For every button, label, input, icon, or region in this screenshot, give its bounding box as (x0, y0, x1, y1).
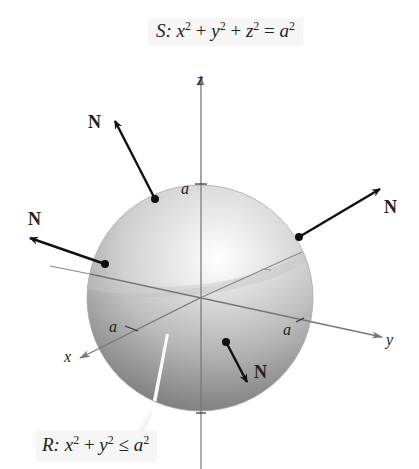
var-y: y (211, 20, 219, 41)
normal-label: N (88, 112, 101, 132)
exp: 2 (289, 19, 295, 33)
var-x: x (65, 434, 73, 455)
radius-label-x: a (109, 318, 117, 335)
surface-name: S: (156, 20, 172, 41)
y-axis-label: y (384, 331, 394, 349)
radius-label-y: a (283, 321, 291, 338)
plus: + (79, 434, 99, 455)
var-a: a (280, 20, 290, 41)
leq: ≤ (114, 434, 134, 455)
y-axis-back (50, 266, 90, 274)
surface-equation-label: S: x2 + y2 + z2 = a2 (148, 18, 303, 46)
normal-vector-upper-right: N (295, 189, 397, 241)
radius-label-z: a (181, 180, 189, 197)
plus: + (191, 20, 211, 41)
sphere-diagram: z x y a a a N N N N (0, 0, 419, 469)
z-axis-label: z (196, 71, 204, 88)
normal-vector-upper-left: N (88, 112, 159, 203)
normal-label: N (384, 197, 397, 217)
var-y: y (99, 434, 107, 455)
equals: = (259, 20, 279, 41)
sphere-surface (70, 185, 330, 420)
var-x: x (177, 20, 185, 41)
region-equation-label: R: x2 + y2 ≤ a2 (36, 430, 157, 462)
x-axis-label: x (63, 348, 71, 365)
plus: + (226, 20, 246, 41)
normal-label: N (28, 209, 41, 229)
region-name: R: (42, 434, 60, 455)
normal-label: N (254, 362, 267, 382)
exp: 2 (143, 433, 149, 447)
var-a: a (134, 434, 144, 455)
